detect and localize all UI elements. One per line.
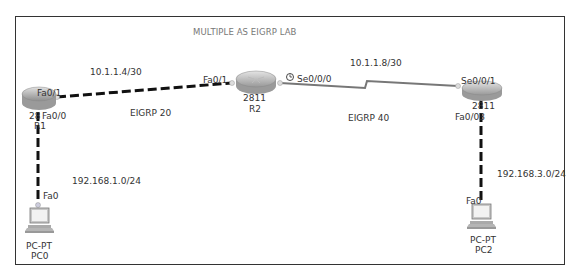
network-label-r2-r3: 10.1.1.8/30	[350, 58, 402, 68]
pc2-name-label: PC2	[475, 245, 492, 255]
network-label-lan3: 192.168.3.0/24	[497, 169, 566, 179]
pc0-icon[interactable]	[24, 207, 56, 237]
as-label-eigrp-40: EIGRP 40	[348, 113, 389, 123]
pc2-model-label: PC-PT	[470, 235, 496, 245]
pc0-model-label: PC-PT	[26, 241, 52, 251]
r1-name-label: R1	[34, 121, 46, 131]
pc2-icon[interactable]	[466, 203, 498, 233]
r2-name-label: R2	[249, 104, 261, 114]
pc0-name-label: PC0	[31, 251, 48, 261]
pc0-fa0-label: Fa0	[43, 191, 59, 201]
clock-icon	[287, 74, 294, 81]
r3-fa00-label: Fa0/03	[455, 112, 485, 122]
r2-fa01-label: Fa0/1	[203, 75, 227, 85]
network-label-r1-r2: 10.1.1.4/30	[90, 67, 142, 77]
r2-se000-label: Se0/0/0	[297, 74, 332, 84]
r1-model-label: 28	[29, 111, 40, 121]
r2-model-label: 2811	[243, 93, 266, 103]
port-dot-icon	[278, 81, 283, 86]
diagram-title: MULTIPLE AS EIGRP LAB	[193, 27, 297, 37]
link-r1-r2[interactable]	[57, 83, 232, 97]
r3-se001-label: Se0/0/1	[461, 76, 496, 86]
network-label-lan1: 192.168.1.0/24	[72, 176, 141, 186]
r1-fa00-label: Fa0/0	[42, 111, 66, 121]
network-topology-canvas: MULTIPLE AS EIGRP LAB 10.1.1.4/30 10.1.1…	[0, 0, 581, 280]
as-label-eigrp-20: EIGRP 20	[130, 108, 171, 118]
r3-model-label: 2811	[472, 101, 495, 111]
r1-fa01-label: Fa0/1	[37, 88, 61, 98]
pc2-fa0-label: Fa0	[466, 196, 482, 206]
